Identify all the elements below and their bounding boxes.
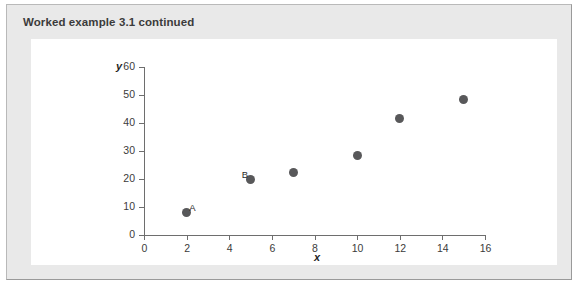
x-tick: 6 [272,235,273,240]
data-point: B [246,175,255,184]
x-tick-mark [144,235,145,240]
y-tick-mark [139,179,144,180]
x-tick-label: 0 [142,242,148,254]
y-tick-label: 50 [123,88,135,100]
y-tick: 20 [139,179,144,180]
x-tick-mark [357,235,358,240]
x-tick-label: 12 [394,242,406,254]
data-point [459,95,468,104]
y-tick: 50 [139,95,144,96]
y-tick: 30 [139,151,144,152]
data-point-label: A [189,202,195,213]
x-tick: 4 [229,235,230,240]
x-tick-mark [229,235,230,240]
y-tick-mark [139,123,144,124]
page-title: Worked example 3.1 continued [23,16,194,28]
y-tick-label: 60 [123,60,135,72]
x-tick: 16 [485,235,486,240]
x-tick-mark [315,235,316,240]
data-point [353,151,362,160]
data-point [289,168,298,177]
x-tick-mark [187,235,188,240]
y-tick: 40 [139,123,144,124]
x-tick-mark [272,235,273,240]
data-point [395,114,404,123]
x-tick-label: 2 [184,242,190,254]
figure-area: y x 0102030405060 0246810121416 AB [31,39,557,265]
x-tick: 12 [400,235,401,240]
data-point: A [182,208,191,217]
y-tick-label: 0 [129,228,135,240]
x-tick-label: 14 [437,242,449,254]
y-tick: 60 [139,67,144,68]
x-tick-label: 10 [352,242,364,254]
y-tick-label: 40 [123,116,135,128]
y-tick-label: 10 [123,200,135,212]
y-tick-mark [139,95,144,96]
x-tick: 10 [357,235,358,240]
x-tick-label: 8 [312,242,318,254]
x-tick-label: 6 [269,242,275,254]
y-tick-mark [139,207,144,208]
data-point-label: B [242,169,248,180]
y-axis-line [144,67,145,235]
x-tick: 8 [315,235,316,240]
x-tick: 2 [187,235,188,240]
worked-example-panel: Worked example 3.1 continued y x 0102030… [6,4,572,280]
x-tick: 14 [442,235,443,240]
x-tick: 0 [144,235,145,240]
x-tick-mark [485,235,486,240]
scatter-plot: y x 0102030405060 0246810121416 AB [31,39,557,265]
y-tick-label: 30 [123,144,135,156]
y-tick-mark [139,151,144,152]
y-tick: 10 [139,207,144,208]
x-tick-label: 4 [227,242,233,254]
x-tick-mark [400,235,401,240]
y-tick-mark [139,67,144,68]
x-tick-mark [442,235,443,240]
y-axis-title: y [116,60,122,72]
y-tick-label: 20 [123,172,135,184]
x-tick-label: 16 [480,242,492,254]
